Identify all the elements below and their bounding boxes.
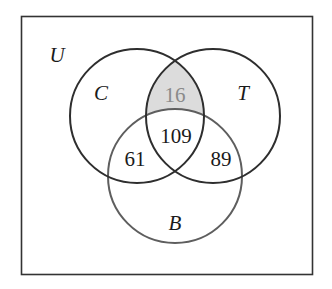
value-all-three: 109	[160, 124, 192, 148]
venn-diagram: U C T B 16 109 61 89	[0, 0, 332, 289]
set-label-b: B	[169, 211, 182, 235]
set-label-t: T	[237, 81, 250, 105]
set-label-c: C	[94, 81, 109, 105]
universe-label: U	[49, 43, 66, 67]
value-t-and-b-only: 89	[211, 147, 232, 171]
value-c-and-t-only: 16	[165, 83, 186, 107]
value-c-and-b-only: 61	[125, 147, 146, 171]
